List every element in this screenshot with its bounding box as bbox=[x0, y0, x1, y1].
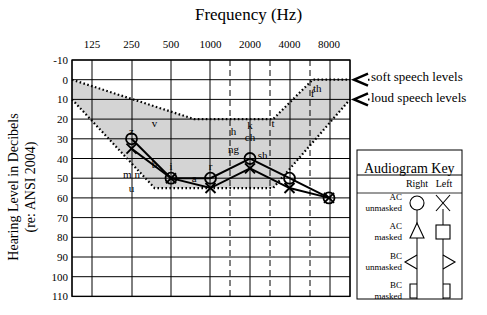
phoneme-label: a bbox=[192, 172, 197, 184]
frequency-tick-label: 250 bbox=[123, 38, 140, 50]
phoneme-label: m n bbox=[123, 168, 140, 180]
y-axis-label-main: Hearing Level in Decibels bbox=[5, 87, 22, 287]
key-circle-icon bbox=[410, 196, 424, 210]
key-square-icon bbox=[436, 225, 450, 239]
phoneme-label: v bbox=[152, 117, 158, 129]
frequency-tick-label: 2000 bbox=[239, 38, 261, 50]
db-tick-label: 90 bbox=[38, 251, 68, 263]
chart-title: Frequency (Hz) bbox=[0, 5, 487, 25]
phoneme-label: z bbox=[129, 125, 134, 137]
key-column-left: Left bbox=[436, 178, 453, 189]
key-row-label: ACunmasked bbox=[358, 192, 402, 214]
key-row-label: ACmasked bbox=[358, 221, 402, 243]
speech-level-arrows bbox=[354, 74, 371, 106]
db-tick-label: 110 bbox=[38, 290, 68, 302]
key-title: Audiogram Key bbox=[364, 161, 455, 177]
db-tick-label: 10 bbox=[38, 93, 68, 105]
soft-speech-arrow-icon bbox=[354, 74, 368, 86]
db-tick-label: 30 bbox=[38, 133, 68, 145]
phoneme-label: k bbox=[247, 119, 253, 131]
soft-speech-label: soft speech levels bbox=[371, 69, 463, 85]
phoneme-label: ng bbox=[228, 143, 239, 155]
db-tick-label: 40 bbox=[38, 153, 68, 165]
phoneme-label: ch bbox=[245, 131, 255, 143]
loud-speech-arrow-icon bbox=[354, 93, 368, 105]
db-tick-label: 50 bbox=[38, 172, 68, 184]
db-tick-label: 70 bbox=[38, 212, 68, 224]
frequency-tick-label: 8000 bbox=[318, 38, 340, 50]
frequency-tick-label: 500 bbox=[163, 38, 180, 50]
db-tick-label: -10 bbox=[38, 54, 68, 66]
frequency-tick-label: 1000 bbox=[200, 38, 222, 50]
db-tick-label: 80 bbox=[38, 231, 68, 243]
key-column-right: Right bbox=[406, 178, 428, 189]
phoneme-label: r bbox=[209, 160, 213, 172]
db-tick-label: 0 bbox=[38, 74, 68, 86]
phoneme-label: t bbox=[272, 117, 275, 129]
phoneme-label: sh bbox=[258, 149, 268, 161]
key-row-label: BCmasked bbox=[358, 280, 402, 302]
phoneme-label: i bbox=[169, 160, 172, 172]
phoneme-label: th bbox=[313, 82, 322, 94]
y-axis-label: Hearing Level in Decibels (re: ANSI 2004… bbox=[5, 87, 39, 287]
frequency-tick-label: 125 bbox=[84, 38, 101, 50]
db-tick-label: 60 bbox=[38, 192, 68, 204]
loud-speech-label: loud speech levels bbox=[371, 90, 466, 106]
y-axis-label-sub: (re: ANSI 2004) bbox=[22, 87, 39, 287]
key-row-label: BCunmasked bbox=[358, 251, 402, 273]
phoneme-label: u bbox=[129, 182, 135, 194]
phoneme-label: h bbox=[231, 125, 237, 137]
db-tick-label: 100 bbox=[38, 271, 68, 283]
phoneme-label: b bbox=[152, 158, 158, 170]
db-tick-label: 20 bbox=[38, 113, 68, 125]
frequency-tick-label: 4000 bbox=[279, 38, 301, 50]
